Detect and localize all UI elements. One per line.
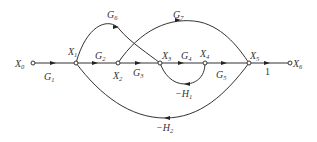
label-x3: X3 [161, 50, 172, 62]
node-x5 [247, 61, 251, 65]
gain-h2: −H2 [156, 122, 174, 134]
arrow-icon [184, 82, 190, 86]
label-x1: X1 [67, 46, 77, 58]
gain-g6: G6 [107, 9, 118, 21]
gain-g5: G5 [216, 69, 227, 81]
arrow-icon [92, 61, 98, 65]
gain-g1: G1 [44, 71, 54, 83]
label-x6: X6 [292, 58, 303, 70]
edge-h1-x4-x3 [160, 63, 205, 84]
label-x0: X0 [14, 58, 25, 70]
arrow-icon [164, 116, 170, 120]
arrow-icon [50, 61, 56, 65]
edge-g6-x1-x3 [76, 24, 160, 63]
node-x1 [74, 61, 78, 65]
node-x0 [31, 61, 35, 65]
gain-unity: 1 [265, 66, 270, 77]
arrow-icon [178, 61, 184, 65]
label-x2: X2 [112, 70, 123, 82]
gain-g2: G2 [95, 50, 106, 62]
node-x4 [203, 61, 207, 65]
node-x2 [116, 61, 120, 65]
node-x6 [288, 61, 292, 65]
signal-flow-graph: X0 X1 X2 X3 X4 X5 X6 G1 G2 G3 G4 G5 G6 G… [0, 0, 317, 142]
label-x4: X4 [199, 48, 210, 60]
gain-h1: −H1 [175, 88, 192, 100]
gain-g7: G7 [173, 9, 184, 21]
gain-g3: G3 [133, 67, 144, 79]
arrow-icon [221, 61, 227, 65]
gain-g4: G4 [181, 50, 192, 62]
arrow-icon [135, 61, 141, 65]
node-x3 [158, 61, 162, 65]
label-x5: X5 [249, 50, 260, 62]
arrow-icon [264, 61, 270, 65]
